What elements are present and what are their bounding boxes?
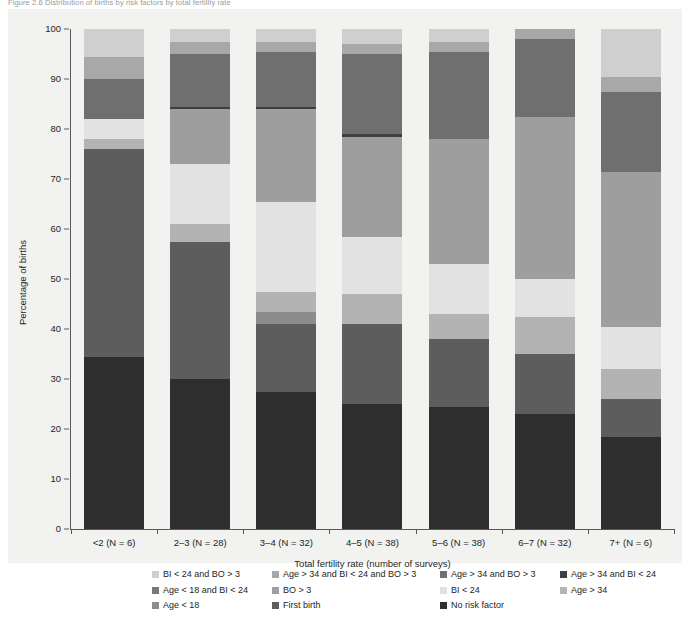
bar-segment[interactable]	[515, 29, 575, 39]
bar-segment[interactable]	[342, 137, 402, 237]
bar-segment[interactable]	[515, 117, 575, 280]
bar-segment[interactable]	[84, 357, 144, 530]
legend-item[interactable]: BO > 3	[272, 586, 311, 595]
bar-segment[interactable]	[256, 109, 316, 202]
x-axis-title: Total fertility rate (number of surveys)	[71, 558, 674, 569]
bar-segment[interactable]	[256, 42, 316, 52]
bar-segment[interactable]	[515, 317, 575, 355]
bar-segment[interactable]	[429, 407, 489, 530]
stacked-bar[interactable]	[515, 29, 575, 529]
bar-segment[interactable]	[170, 54, 230, 107]
bar-segment[interactable]	[256, 292, 316, 312]
bar-segment[interactable]	[601, 327, 661, 370]
y-axis-tick	[64, 229, 69, 230]
y-axis-tick-label: 90	[50, 74, 61, 84]
bar-segment[interactable]	[84, 149, 144, 357]
bar-segment[interactable]	[342, 237, 402, 295]
bar-segment[interactable]	[429, 52, 489, 140]
bar-segment[interactable]	[342, 404, 402, 529]
legend-label: Age > 34 and BI < 24 and BO > 3	[283, 570, 416, 579]
bar-segment[interactable]	[342, 29, 402, 44]
bar-segment[interactable]	[170, 109, 230, 164]
x-axis-tick	[502, 529, 503, 534]
bar-segment[interactable]	[601, 29, 661, 77]
bar-segment[interactable]	[601, 92, 661, 172]
y-axis-tick	[64, 429, 69, 430]
bar-segment[interactable]	[601, 77, 661, 92]
bar-segment[interactable]	[429, 29, 489, 42]
x-axis-tick-label: 6–7 (N = 32)	[502, 537, 588, 548]
y-axis-tick-label: 100	[45, 24, 61, 34]
bar-segment[interactable]	[256, 392, 316, 530]
figure-caption: Figure 2.6 Distribution of births by ris…	[8, 0, 231, 7]
bar-segment[interactable]	[429, 42, 489, 52]
legend-item[interactable]: Age > 34 and BI < 24	[560, 570, 656, 579]
legend-item[interactable]: BI < 24	[440, 586, 480, 595]
x-axis-tick	[416, 529, 417, 534]
legend-swatch-icon	[152, 602, 159, 609]
bar-segment[interactable]	[601, 172, 661, 327]
bar-segment[interactable]	[342, 54, 402, 134]
x-axis-tick	[157, 529, 158, 534]
y-axis-tick-label: 0	[56, 524, 61, 534]
bar-segment[interactable]	[515, 414, 575, 529]
legend-item[interactable]: Age > 34 and BI < 24 and BO > 3	[272, 570, 416, 579]
bar-segment[interactable]	[342, 324, 402, 404]
bar-segment[interactable]	[256, 312, 316, 325]
bar-segment[interactable]	[256, 52, 316, 107]
bar-segment[interactable]	[601, 437, 661, 530]
bar-segment[interactable]	[601, 399, 661, 437]
stacked-bar[interactable]	[601, 29, 661, 529]
stacked-bar[interactable]	[342, 29, 402, 529]
bar-segment[interactable]	[601, 369, 661, 399]
bar-segment[interactable]	[429, 339, 489, 407]
stacked-bar[interactable]	[429, 29, 489, 529]
stacked-bar[interactable]	[84, 29, 144, 529]
bar-segment[interactable]	[342, 44, 402, 54]
bar-slot	[416, 29, 502, 529]
bar-segment[interactable]	[515, 279, 575, 317]
legend-item[interactable]: BI < 24 and BO > 3	[152, 570, 240, 579]
legend-item[interactable]: No risk factor	[440, 601, 504, 610]
legend-label: First birth	[283, 601, 321, 610]
bar-segment[interactable]	[84, 139, 144, 149]
y-axis-tick-label: 60	[50, 224, 61, 234]
legend-item[interactable]: First birth	[272, 601, 321, 610]
bar-segment[interactable]	[429, 264, 489, 314]
bar-segment[interactable]	[429, 139, 489, 264]
bar-segment[interactable]	[342, 294, 402, 324]
x-axis-tick-label: <2 (N = 6)	[71, 537, 157, 548]
legend-swatch-icon	[272, 571, 279, 578]
legend-swatch-icon	[272, 587, 279, 594]
stacked-bar[interactable]	[170, 29, 230, 529]
bar-segment[interactable]	[256, 29, 316, 42]
bar-segment[interactable]	[256, 324, 316, 392]
bar-segment[interactable]	[84, 29, 144, 57]
legend-swatch-icon	[272, 602, 279, 609]
y-axis-tick-label: 40	[50, 324, 61, 334]
bar-segment[interactable]	[84, 57, 144, 80]
legend-item[interactable]: Age < 18 and BI < 24	[152, 586, 248, 595]
bar-segment[interactable]	[170, 164, 230, 224]
chart-legend: BI < 24 and BO > 3Age > 34 and BI < 24 a…	[8, 570, 682, 617]
bar-segment[interactable]	[256, 202, 316, 292]
legend-swatch-icon	[440, 571, 447, 578]
stacked-bar[interactable]	[256, 29, 316, 529]
legend-row: Age < 18First birthNo risk factor	[8, 601, 682, 613]
bar-segment[interactable]	[515, 354, 575, 414]
legend-item[interactable]: Age > 34 and BO > 3	[440, 570, 536, 579]
bar-segment[interactable]	[170, 242, 230, 380]
legend-item[interactable]: Age > 34	[560, 586, 607, 595]
bar-segment[interactable]	[170, 379, 230, 529]
y-axis-tick-label: 10	[50, 474, 61, 484]
bar-segment[interactable]	[170, 29, 230, 42]
bar-segment[interactable]	[84, 79, 144, 119]
chart-plot-panel: Percentage of births 0102030405060708090…	[8, 9, 682, 563]
legend-item[interactable]: Age < 18	[152, 601, 199, 610]
x-axis-tick	[588, 529, 589, 534]
bar-segment[interactable]	[429, 314, 489, 339]
bar-segment[interactable]	[84, 119, 144, 139]
bar-segment[interactable]	[170, 224, 230, 242]
bar-segment[interactable]	[515, 39, 575, 117]
bar-segment[interactable]	[170, 42, 230, 55]
